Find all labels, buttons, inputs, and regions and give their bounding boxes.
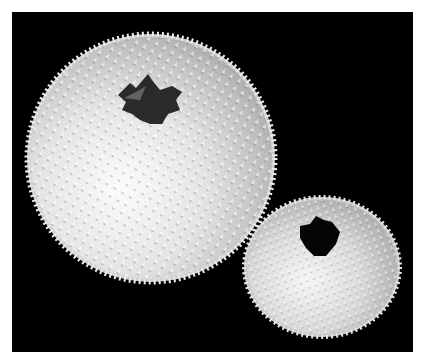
image-frame [12, 12, 413, 352]
large-spiky-sphere [27, 34, 275, 282]
scene [12, 12, 413, 352]
small-spiky-sphere [244, 197, 400, 337]
